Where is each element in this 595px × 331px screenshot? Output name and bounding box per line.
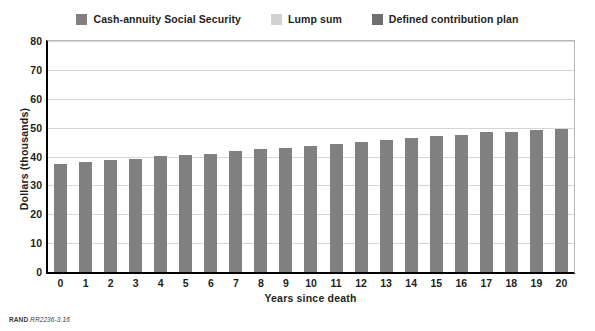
bar-segment [154,156,167,272]
bar[interactable] [430,136,443,272]
legend-swatch-icon [372,14,383,25]
bar-segment [79,162,92,272]
x-axis-tick-label: 18 [506,277,518,289]
x-axis-tick-label: 7 [233,277,239,289]
bar-group: 17 [474,41,499,272]
y-axis-tick-label: 70 [30,64,42,76]
bar[interactable] [129,159,142,272]
bar-group: 7 [223,41,248,272]
bar-segment [530,130,543,272]
bar[interactable] [530,130,543,272]
x-axis-tick-label: 5 [183,277,189,289]
x-axis-tick-label: 0 [58,277,64,289]
y-axis-tick-label: 40 [30,151,42,163]
x-axis-title: Years since death [46,292,575,304]
bar-group: 3 [123,41,148,272]
bar-segment [405,138,418,272]
bar-segment [204,154,217,272]
bar[interactable] [455,135,468,272]
bar-group: 6 [198,41,223,272]
bar-segment [430,136,443,272]
bar-segment [279,148,292,272]
bar-segment [104,160,117,272]
x-axis-tick-label: 8 [258,277,264,289]
bar-group: 15 [424,41,449,272]
y-axis-tick-label: 50 [30,122,42,134]
x-axis-tick-label: 3 [133,277,139,289]
bar-segment [229,151,242,272]
bar-segment [555,129,568,272]
x-axis-tick-label: 9 [283,277,289,289]
bar-group: 11 [324,41,349,272]
y-axis-tick-label: 20 [30,208,42,220]
figure-container: Cash-annuity Social SecurityLump sumDefi… [0,0,595,331]
bar-group: 20 [549,41,574,272]
x-axis-tick-label: 13 [380,277,392,289]
bar[interactable] [154,156,167,272]
bar-group: 18 [499,41,524,272]
bar[interactable] [405,138,418,272]
bar-group: 16 [449,41,474,272]
chart-legend: Cash-annuity Social SecurityLump sumDefi… [0,14,595,25]
bar-group: 0 [48,41,73,272]
legend-swatch-icon [271,14,282,25]
bar[interactable] [330,144,343,272]
bar[interactable] [54,164,67,272]
bar-segment [455,135,468,272]
x-axis-tick-label: 19 [531,277,543,289]
bar-segment [54,164,67,272]
legend-item-label: Lump sum [288,14,342,25]
y-axis-title: Dollars (thousands) [18,59,30,259]
y-axis-tick-label: 0 [36,266,42,278]
bar[interactable] [304,146,317,272]
y-axis-tick-label: 30 [30,179,42,191]
bar-group: 14 [399,41,424,272]
footer-brand: RAND [9,316,28,323]
x-axis-tick-label: 2 [108,277,114,289]
x-axis-tick-label: 11 [330,277,341,289]
bar-group: 2 [98,41,123,272]
bar-group: 12 [349,41,374,272]
bar-group: 10 [298,41,323,272]
bar[interactable] [355,142,368,272]
bar[interactable] [179,155,192,272]
plot-area: 01020304050607080 0123456789101112131415… [46,40,575,274]
bar[interactable] [279,148,292,272]
x-axis-tick-label: 20 [556,277,568,289]
bar[interactable] [555,129,568,272]
bar-group: 4 [148,41,173,272]
bar[interactable] [380,140,393,272]
legend-item: Defined contribution plan [372,14,519,25]
legend-swatch-icon [76,14,87,25]
y-axis-tick-label: 10 [30,237,42,249]
y-axis-tick-label: 60 [30,93,42,105]
y-axis-tick-label: 80 [30,35,42,47]
bar-segment [254,149,267,272]
bar[interactable] [505,132,518,272]
bar-group: 5 [173,41,198,272]
bar[interactable] [480,132,493,272]
legend-item-label: Defined contribution plan [389,14,519,25]
bar-group: 19 [524,41,549,272]
x-axis-tick-label: 1 [83,277,89,289]
x-axis-tick-label: 6 [208,277,214,289]
bar[interactable] [254,149,267,272]
x-axis-tick-label: 16 [455,277,467,289]
bar[interactable] [79,162,92,272]
x-axis-tick-label: 15 [430,277,442,289]
bar-group: 1 [73,41,98,272]
x-axis-tick-label: 14 [405,277,417,289]
legend-item-label: Cash-annuity Social Security [93,14,241,25]
legend-item: Lump sum [271,14,342,25]
bar[interactable] [104,160,117,272]
bar-series-group: 01234567891011121314151617181920 [48,41,574,272]
bar-segment [129,159,142,272]
x-axis-tick-label: 17 [480,277,492,289]
bar-segment [330,144,343,272]
bar[interactable] [204,154,217,272]
bar[interactable] [229,151,242,272]
bar-segment [179,155,192,272]
x-axis-tick-label: 4 [158,277,164,289]
bar-segment [480,132,493,272]
bar-group: 8 [248,41,273,272]
